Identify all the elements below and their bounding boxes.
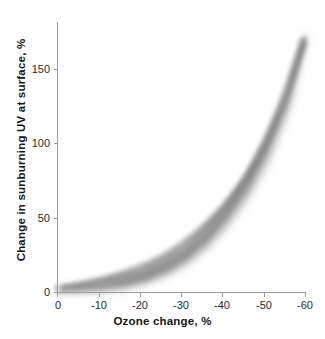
x-tick-label-minus-60: -60 bbox=[297, 299, 313, 311]
x-tick-label-minus-50: -50 bbox=[256, 299, 272, 311]
x-tick-label-minus-10: -10 bbox=[91, 299, 107, 311]
y-axis-ticks bbox=[54, 69, 58, 293]
uncertainty-band bbox=[57, 20, 309, 295]
x-tick-label-minus-40: -40 bbox=[214, 299, 230, 311]
x-tick-label-0: 0 bbox=[55, 299, 61, 311]
y-axis-title: Change in sunburning UV at surface, % bbox=[12, 0, 30, 300]
x-tick-label-minus-30: -30 bbox=[173, 299, 189, 311]
x-axis-title: Ozone change, % bbox=[0, 315, 325, 327]
band-left-fade bbox=[57, 20, 127, 293]
y-axis-title-text: Change in sunburning UV at surface, % bbox=[15, 39, 27, 262]
chart-figure: 0 50 100 150 0 -10 -20 -30 -40 -50 -60 O… bbox=[0, 0, 325, 339]
x-tick-label-minus-20: -20 bbox=[132, 299, 148, 311]
